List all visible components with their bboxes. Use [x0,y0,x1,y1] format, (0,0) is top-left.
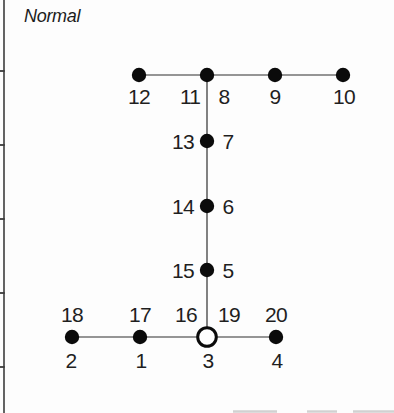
diagram-svg: 1211891013714615518171619202134 [0,0,394,413]
graph-node [65,330,79,344]
graph-node [133,330,147,344]
graph-node [200,134,214,148]
graph-node [336,68,350,82]
graph-node [200,199,214,213]
node-label: 12 [128,85,150,108]
graph-node [132,68,146,82]
node-label: 20 [265,303,287,326]
node-label: 4 [272,349,284,372]
graph-node [200,263,214,277]
node-label: 3 [203,349,214,372]
node-label: 14 [172,195,195,218]
node-label: 19 [218,303,240,326]
node-label: 18 [61,303,83,326]
node-label: 9 [270,85,281,108]
graph-node [269,330,283,344]
node-label: 1 [136,349,147,372]
graph-node [268,68,282,82]
node-label: 2 [66,349,77,372]
node-label: 8 [219,85,230,108]
node-label: 10 [333,85,355,108]
node-label: 13 [172,130,194,153]
node-label: 11 [180,85,200,108]
graph-node-open [198,328,217,347]
node-label: 17 [129,303,151,326]
figure-canvas: Normal 1211891013714615518171619202134 [0,0,394,413]
graph-node [200,68,214,82]
node-label: 15 [172,259,194,282]
node-label: 5 [223,259,234,282]
node-label: 16 [175,303,197,326]
node-label: 7 [223,130,234,153]
node-label: 6 [223,195,234,218]
